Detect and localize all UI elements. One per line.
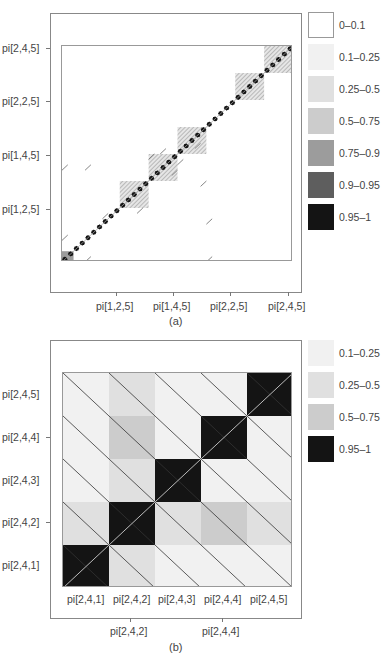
panel-b-ylabel: pi[2,4,1] bbox=[2, 559, 39, 571]
panel-a-ylabel: pi[1,4,5] bbox=[2, 149, 39, 161]
panel-b-xlabel: pi[2,4,1] bbox=[67, 593, 104, 605]
panel-a-xlabel: pi[2,4,5] bbox=[268, 300, 305, 312]
panel-b-xlabel: pi[2,4,3] bbox=[158, 593, 195, 605]
panel-a-plot-area bbox=[61, 45, 292, 261]
panel-b-xlabel: pi[2,4,2] bbox=[113, 593, 150, 605]
legend-label: 0–0.1 bbox=[339, 19, 365, 31]
legend-swatch bbox=[308, 140, 334, 166]
panel-b-ylabel: pi[2,4,5] bbox=[2, 388, 39, 400]
legend-label: 0.25–0.5 bbox=[339, 83, 380, 95]
legend-swatch bbox=[308, 76, 334, 102]
panel-b-xtick bbox=[130, 618, 131, 622]
legend-swatch bbox=[308, 436, 334, 462]
panel-b-plot-area bbox=[62, 372, 292, 587]
legend-label: 0.1–0.25 bbox=[339, 51, 380, 63]
legend-swatch bbox=[308, 340, 334, 366]
legend-swatch bbox=[308, 372, 334, 398]
legend-swatch bbox=[308, 404, 334, 430]
panel-b-xlabel: pi[2,4,4] bbox=[204, 593, 241, 605]
legend-label: 0.9–0.95 bbox=[339, 179, 380, 191]
legend-swatch bbox=[308, 204, 334, 230]
legend-swatch bbox=[308, 12, 334, 38]
legend-label: 0.25–0.5 bbox=[339, 379, 380, 391]
legend-label: 0.5–0.75 bbox=[339, 411, 380, 423]
legend-label: 0.5–0.75 bbox=[339, 115, 380, 127]
legend-swatch bbox=[308, 44, 334, 70]
panel-b-ytick bbox=[46, 522, 50, 523]
panel-a-xtick bbox=[116, 292, 117, 296]
panel-b-ytick bbox=[46, 437, 50, 438]
panel-a-ytick bbox=[46, 48, 50, 49]
panel-a-xlabel: pi[1,2,5] bbox=[96, 300, 133, 312]
legend-label: 0.75–0.9 bbox=[339, 147, 380, 159]
panel-b-xtick-label: pi[2,4,2] bbox=[110, 625, 147, 637]
panel-a-ylabel: pi[1,2,5] bbox=[2, 203, 39, 215]
panel-a-heatmap bbox=[62, 46, 292, 261]
panel-a-xlabel: pi[2,2,5] bbox=[210, 300, 247, 312]
panel-a-xtick bbox=[173, 292, 174, 296]
panel-b-ylabel: pi[2,4,3] bbox=[2, 474, 39, 486]
panel-b-xtick-label: pi[2,4,4] bbox=[202, 625, 239, 637]
panel-a-xtick bbox=[288, 292, 289, 296]
legend-label: 0.1–0.25 bbox=[339, 347, 380, 359]
legend-swatch bbox=[308, 172, 334, 198]
legend-label: 0.95–1 bbox=[339, 443, 371, 455]
panel-a-ytick bbox=[46, 101, 50, 102]
panel-a-ylabel: pi[2,4,5] bbox=[2, 42, 39, 54]
panel-b-xlabel: pi[2,4,5] bbox=[250, 593, 287, 605]
panel-a-ytick bbox=[46, 209, 50, 210]
legend-label: 0.95–1 bbox=[339, 211, 371, 223]
panel-b-ylabel: pi[2,4,4] bbox=[2, 431, 39, 443]
panel-b-caption: (b) bbox=[169, 641, 182, 653]
legend-swatch bbox=[308, 108, 334, 134]
panel-b-heatmap bbox=[63, 373, 292, 587]
panel-a-xlabel: pi[1,4,5] bbox=[153, 300, 190, 312]
panel-b-xtick bbox=[222, 618, 223, 622]
panel-a-ylabel: pi[2,2,5] bbox=[2, 95, 39, 107]
panel-a-ytick bbox=[46, 155, 50, 156]
panel-a-caption: (a) bbox=[169, 315, 182, 327]
panel-a-xtick bbox=[230, 292, 231, 296]
panel-b-ylabel: pi[2,4,2] bbox=[2, 516, 39, 528]
